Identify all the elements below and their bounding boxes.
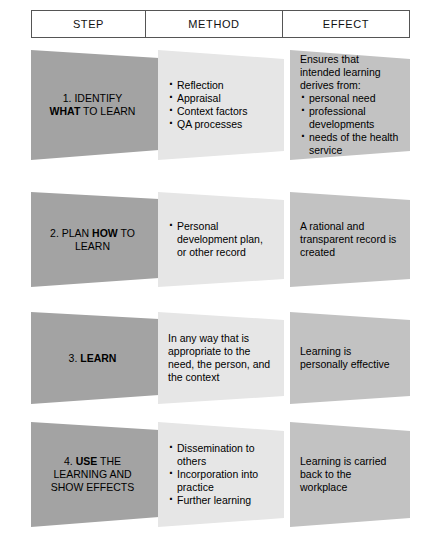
step-line3: LEARNING AND — [53, 468, 131, 481]
method-text: Personal development plan, or other reco… — [158, 192, 287, 287]
list-item: Personal development plan, or other reco… — [168, 220, 273, 259]
method-bullet-list: Reflection Appraisal Context factors QA … — [168, 79, 248, 131]
step-keyword: LEARN — [80, 352, 116, 364]
step-cell: 2. PLAN HOW TO LEARN — [31, 192, 162, 287]
step-line4: SHOW EFFECTS — [51, 481, 134, 494]
step-line1: IDENTIFY — [72, 92, 123, 104]
step-cell: 3. LEARN — [31, 312, 162, 404]
step-cell: 1. IDENTIFY WHAT TO LEARN — [31, 50, 162, 160]
method-bullet-list: Dissemination to others Incorporation in… — [168, 442, 273, 507]
effect-cell: Learning is personally effective — [290, 312, 413, 404]
list-item: personal need — [300, 92, 399, 105]
method-cell: Reflection Appraisal Context factors QA … — [158, 50, 287, 160]
list-item: needs of the health service — [300, 131, 399, 157]
effect-lead: Ensures that intended learning derives f… — [300, 53, 399, 92]
diagram-row: 4. USE THE LEARNING AND SHOW EFFECTS Dis… — [0, 422, 425, 527]
list-item: Appraisal — [168, 92, 248, 105]
step-line2: TO LEARN — [80, 105, 135, 117]
diagram-row: 3. LEARN In any way that is appropriate … — [0, 312, 425, 404]
effect-text: Ensures that intended learning derives f… — [290, 50, 413, 160]
step-keyword: WHAT — [50, 105, 81, 117]
method-cell: Personal development plan, or other reco… — [158, 192, 287, 287]
step-keyword: USE — [76, 455, 98, 467]
diagram-row: 2. PLAN HOW TO LEARN Personal developmen… — [0, 192, 425, 287]
step-cell: 4. USE THE LEARNING AND SHOW EFFECTS — [31, 422, 162, 527]
step-text: 1. IDENTIFY WHAT TO LEARN — [31, 50, 162, 160]
effect-bullet-list: personal need professional developments … — [300, 92, 399, 157]
effect-cell: Ensures that intended learning derives f… — [290, 50, 413, 160]
step-number: 2. — [50, 227, 59, 239]
step-text: 4. USE THE LEARNING AND SHOW EFFECTS — [31, 422, 162, 527]
method-paragraph: In any way that is appropriate to the ne… — [168, 332, 273, 384]
step-text: 3. LEARN — [31, 312, 162, 404]
method-cell: Dissemination to others Incorporation in… — [158, 422, 287, 527]
step-line3: LEARN — [75, 240, 110, 253]
step-text: 2. PLAN HOW TO LEARN — [31, 192, 162, 287]
method-cell: In any way that is appropriate to the ne… — [158, 312, 287, 404]
list-item: Reflection — [168, 79, 248, 92]
column-header-effect: EFFECT — [283, 11, 409, 37]
list-item: Further learning — [168, 494, 273, 507]
column-header-step: STEP — [32, 11, 146, 37]
method-text: Reflection Appraisal Context factors QA … — [158, 50, 287, 160]
method-text: Dissemination to others Incorporation in… — [158, 422, 287, 527]
list-item: Dissemination to others — [168, 442, 273, 468]
method-bullet-list: Personal development plan, or other reco… — [168, 220, 273, 259]
list-item: Context factors — [168, 105, 248, 118]
step-line1: PLAN — [59, 227, 92, 239]
step-number: 3. — [69, 352, 78, 364]
effect-cell: Learning is carried back to the workplac… — [290, 422, 413, 527]
step-keyword: HOW — [92, 227, 118, 239]
effect-text: Learning is personally effective — [290, 312, 413, 404]
list-item: Incorporation into practice — [168, 468, 273, 494]
step-line2-partial: TO — [118, 227, 135, 239]
method-text: In any way that is appropriate to the ne… — [158, 312, 287, 404]
effect-lead: A rational and transparent record is cre… — [300, 220, 399, 259]
effect-lead: Learning is personally effective — [300, 345, 399, 371]
list-item: QA processes — [168, 118, 248, 131]
effect-lead: Learning is carried back to the workplac… — [300, 455, 399, 494]
step-number: 4. — [64, 455, 73, 467]
step-line2-partial: THE — [97, 455, 121, 467]
diagram-row: 1. IDENTIFY WHAT TO LEARN Reflection App… — [0, 50, 425, 160]
list-item: professional developments — [300, 105, 399, 131]
effect-cell: A rational and transparent record is cre… — [290, 192, 413, 287]
step-number: 1. — [63, 92, 72, 104]
column-header-method: METHOD — [146, 11, 283, 37]
column-header-row: STEP METHOD EFFECT — [31, 10, 410, 38]
effect-text: A rational and transparent record is cre… — [290, 192, 413, 287]
diagram-root: STEP METHOD EFFECT 1. IDENTIFY WHAT TO L… — [0, 0, 425, 548]
effect-text: Learning is carried back to the workplac… — [290, 422, 413, 527]
